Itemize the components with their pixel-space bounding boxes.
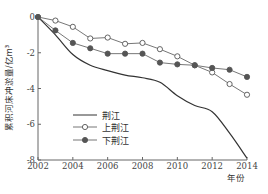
- data-point: [244, 92, 249, 97]
- y-tick-label: -4: [27, 84, 35, 94]
- data-point: [227, 81, 232, 86]
- x-tick-label: 2010: [167, 161, 189, 171]
- legend-label: 下荆江: [102, 135, 129, 146]
- data-point: [140, 51, 145, 56]
- legend-item-3: 下荆江: [73, 135, 129, 146]
- data-point: [227, 67, 232, 72]
- data-point: [175, 54, 180, 59]
- x-tick-label: 2002: [27, 161, 49, 171]
- data-point: [244, 74, 249, 79]
- y-tick-label: -6: [27, 119, 35, 129]
- data-point: [192, 63, 197, 68]
- legend-marker: [82, 137, 87, 142]
- series-1: [38, 17, 247, 158]
- data-point: [88, 36, 93, 41]
- y-tick-label: -2: [27, 48, 35, 58]
- data-point: [53, 28, 58, 33]
- axes: 0-2-4-6-82002200420062008201020122014: [27, 12, 258, 171]
- data-point: [70, 24, 75, 29]
- x-tick-label: 2004: [62, 161, 84, 171]
- x-axis-title: 年份: [227, 173, 245, 183]
- series-layer: [35, 14, 249, 158]
- y-axis-title: 累积河床冲淤量/亿m³: [4, 45, 14, 132]
- data-point: [70, 40, 75, 45]
- chart: 0-2-4-6-82002200420062008201020122014 荆江…: [0, 0, 268, 194]
- y-tick-label: 0: [30, 12, 35, 22]
- series-line: [38, 17, 247, 158]
- data-point: [105, 51, 110, 56]
- data-point: [157, 47, 162, 52]
- data-point: [122, 41, 127, 46]
- legend-label: 荆江: [102, 110, 120, 121]
- legend-item-1: 荆江: [73, 110, 120, 121]
- data-point: [175, 62, 180, 67]
- data-point: [105, 35, 110, 40]
- x-tick-label: 2008: [132, 161, 154, 171]
- legend-label: 上荆江: [102, 122, 129, 133]
- data-point: [210, 65, 215, 70]
- legend-item-2: 上荆江: [73, 122, 129, 133]
- x-tick-label: 2012: [201, 161, 223, 171]
- x-tick-label: 2006: [97, 161, 119, 171]
- legend: 荆江上荆江下荆江: [73, 110, 129, 146]
- series-3: [35, 14, 249, 79]
- legend-marker: [82, 124, 87, 129]
- data-point: [53, 18, 58, 23]
- data-point: [122, 51, 127, 56]
- x-tick-label: 2014: [236, 161, 258, 171]
- data-point: [88, 46, 93, 51]
- data-point: [157, 60, 162, 65]
- data-point: [140, 40, 145, 45]
- data-point: [35, 14, 40, 19]
